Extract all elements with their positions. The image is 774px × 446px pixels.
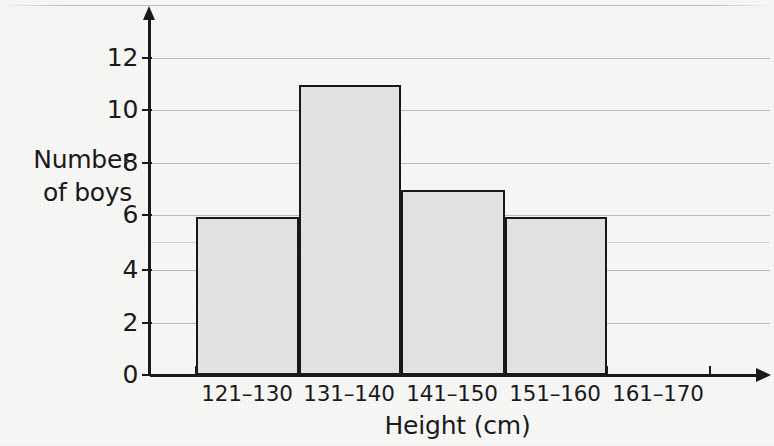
- x-tick-0: [195, 366, 197, 377]
- bar-131-140[interactable]: [299, 85, 401, 375]
- arrow-right-icon: [756, 368, 771, 382]
- x-axis-line: [150, 374, 758, 377]
- y-axis-title: Number of boys: [4, 143, 132, 209]
- y-tick-4: [142, 269, 152, 271]
- y-tick-label-12: 12: [98, 45, 138, 70]
- y-tick-label-4: 4: [98, 257, 138, 282]
- x-tick-label-161-170: 161–170: [597, 381, 719, 407]
- gridline-10: [150, 110, 770, 111]
- x-axis-title: Height (cm): [330, 412, 585, 440]
- arrow-up-icon: [143, 6, 155, 20]
- histogram-figure: 12 10 8 6 4 2 0 121–130 131–140 141–150 …: [0, 0, 774, 446]
- x-tick-2: [400, 366, 402, 377]
- y-tick-6: [142, 214, 152, 216]
- x-tick-5: [709, 366, 711, 377]
- y-tick-2: [142, 322, 152, 324]
- x-tick-1: [298, 366, 300, 377]
- y-tick-10: [142, 109, 152, 111]
- x-tick-4: [606, 366, 608, 377]
- y-tick-label-0: 0: [98, 362, 138, 387]
- bar-151-160[interactable]: [505, 217, 607, 375]
- y-axis-title-line2: of boys: [4, 176, 132, 209]
- bar-121-130[interactable]: [196, 217, 299, 375]
- y-tick-8: [142, 162, 152, 164]
- x-tick-3: [504, 366, 506, 377]
- y-tick-12: [142, 57, 152, 59]
- gridline-12: [150, 58, 770, 59]
- y-tick-0: [142, 374, 152, 376]
- y-tick-label-2: 2: [98, 310, 138, 335]
- gridline-8: [150, 163, 770, 164]
- bar-141-150[interactable]: [401, 190, 505, 375]
- y-axis-title-line1: Number: [4, 143, 132, 176]
- y-tick-label-10: 10: [98, 97, 138, 122]
- y-tick-label-group: 12 10 8 6 4 2 0: [90, 0, 138, 446]
